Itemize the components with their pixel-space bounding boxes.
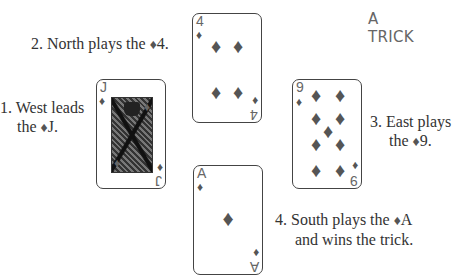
caption-south: 4. South plays the ♦A and wins the trick… — [275, 210, 413, 249]
caption-east: 3. East plays the ♦9. — [370, 112, 451, 151]
diamond-icon: ♦ — [252, 95, 258, 107]
card-rank: 9 — [350, 173, 358, 188]
diamond-icon: ♦ — [41, 120, 48, 135]
jack-face-image: ♦ ♦ — [111, 97, 153, 173]
caption-text: 2. North plays the — [31, 35, 150, 52]
diamond-icon: ♦ — [150, 37, 157, 52]
diamond-icon: ♦ — [394, 213, 401, 228]
diamond-icon: ♦ — [157, 161, 163, 173]
diamond-icon: ♦ — [253, 247, 259, 259]
card-rank: J — [100, 80, 107, 95]
caption-text: 4. South plays the — [275, 211, 394, 228]
diamond-icon: ♦ — [306, 134, 326, 154]
caption-card: J. — [48, 118, 58, 135]
caption-line-2: the ♦9. — [370, 131, 451, 151]
caption-line-2: the ♦J. — [0, 117, 84, 137]
diamond-icon: ♦ — [228, 82, 248, 102]
caption-text: 3. East plays — [370, 113, 451, 130]
title-line-2: TRICK — [368, 28, 414, 46]
diamond-icon: ♦ — [413, 134, 420, 149]
diamond-icon: ♦ — [197, 181, 203, 193]
caption-card: 4. — [157, 35, 169, 52]
diamond-icon: ♦ — [144, 101, 150, 113]
card-rank: 4 — [196, 14, 204, 29]
diamond-icon: ♦ — [206, 36, 226, 56]
caption-north: 2. North plays the ♦4. — [31, 34, 169, 54]
card-north-4-diamonds: 4 ♦ ♦ ♦ ♦ ♦ ♦ 4 — [192, 13, 262, 123]
title-line-1: A — [368, 10, 414, 28]
diamond-icon: ♦ — [306, 160, 326, 180]
card-rank: J — [155, 173, 162, 188]
diamond-icon: ♦ — [114, 157, 120, 169]
caption-text: the — [389, 132, 413, 149]
diamond-icon: ♦ — [228, 36, 248, 56]
diamond-icon: ♦ — [330, 160, 350, 180]
diamond-icon: ♦ — [196, 29, 202, 41]
diamond-icon: ♦ — [352, 160, 358, 172]
diagram-title: A TRICK — [368, 10, 414, 46]
diamond-icon: ♦ — [99, 95, 105, 107]
diamond-icon: ♦ — [330, 134, 350, 154]
caption-card: A — [401, 211, 413, 228]
caption-line-2: and wins the trick. — [275, 230, 413, 249]
diamond-icon: ♦ — [218, 209, 238, 229]
card-south-ace-diamonds: A ♦ ♦ ♦ A — [193, 165, 263, 275]
diamond-icon: ♦ — [330, 85, 350, 105]
diamond-icon: ♦ — [296, 96, 302, 108]
diamond-icon: ♦ — [206, 82, 226, 102]
card-rank: 9 — [296, 80, 304, 95]
card-rank: 4 — [250, 107, 258, 122]
card-rank: A — [197, 166, 206, 181]
card-east-9-diamonds: 9 ♦ ♦ ♦ ♦ ♦ ♦ ♦ ♦ ♦ ♦ ♦ 9 — [292, 79, 362, 189]
caption-card: 9. — [420, 132, 432, 149]
diamond-icon: ♦ — [306, 85, 326, 105]
card-west-jack-diamonds: J ♦ ♦ ♦ ♦ J — [96, 79, 166, 189]
caption-west: 1. West leads the ♦J. — [0, 98, 84, 137]
caption-text: 1. West leads — [0, 99, 84, 116]
caption-text: the — [17, 118, 41, 135]
card-rank: A — [250, 259, 259, 274]
